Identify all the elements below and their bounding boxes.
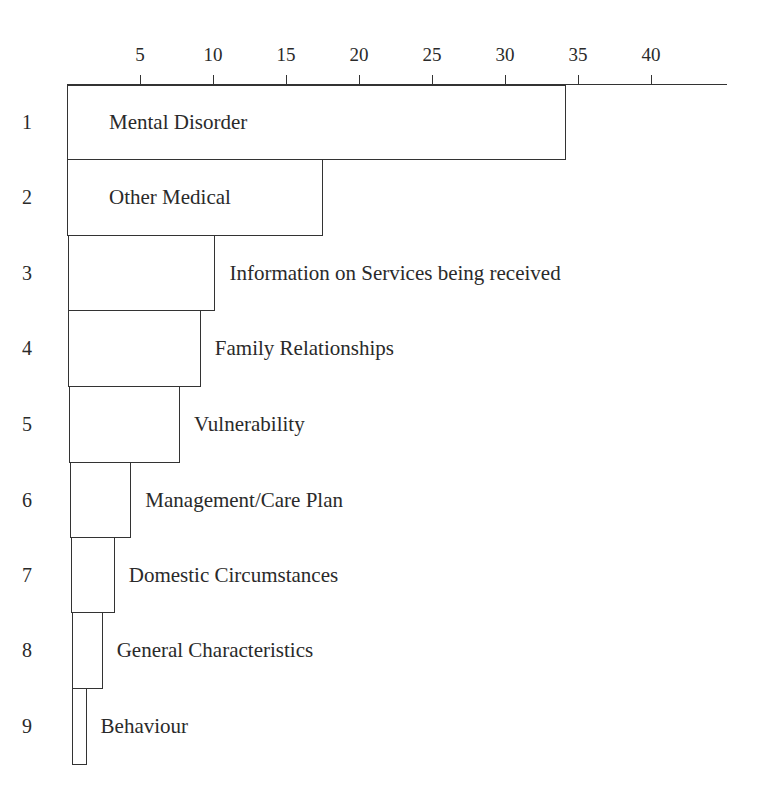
bar-label: Management/Care Plan xyxy=(145,487,343,512)
x-tick-label: 35 xyxy=(569,44,588,66)
row-number: 2 xyxy=(22,186,32,209)
x-tick-label: 25 xyxy=(423,44,442,66)
bar xyxy=(70,462,131,538)
x-tick xyxy=(286,75,287,84)
x-tick xyxy=(505,75,506,84)
bar xyxy=(72,612,103,689)
bar-label: Mental Disorder xyxy=(109,110,247,135)
horizontal-bar-chart: 510152025303540 1Mental Disorder2Other M… xyxy=(0,0,759,806)
bar-label: Domestic Circumstances xyxy=(129,562,338,587)
row-number: 4 xyxy=(22,337,32,360)
bar-label: Other Medical xyxy=(109,185,231,210)
row-number: 3 xyxy=(22,261,32,284)
row-number: 6 xyxy=(22,488,32,511)
row-number: 1 xyxy=(22,111,32,134)
row-number: 8 xyxy=(22,639,32,662)
x-tick xyxy=(578,75,579,84)
x-tick xyxy=(432,75,433,84)
x-tick-label: 40 xyxy=(642,44,661,66)
bar xyxy=(68,310,201,387)
x-tick-label: 10 xyxy=(204,44,223,66)
x-tick xyxy=(651,75,652,84)
bar-label: Behaviour xyxy=(101,714,188,739)
bar-label: General Characteristics xyxy=(117,638,314,663)
bar xyxy=(71,537,115,613)
x-tick xyxy=(359,75,360,84)
x-tick-label: 20 xyxy=(350,44,369,66)
bar xyxy=(69,386,180,463)
row-number: 7 xyxy=(22,563,32,586)
bar-label: Vulnerability xyxy=(194,412,305,437)
x-tick-label: 5 xyxy=(135,44,145,66)
row-number: 9 xyxy=(22,715,32,738)
x-tick-label: 15 xyxy=(277,44,296,66)
bar-label: Family Relationships xyxy=(215,336,394,361)
x-tick xyxy=(213,75,214,84)
row-number: 5 xyxy=(22,413,32,436)
x-tick-label: 30 xyxy=(496,44,515,66)
bar-label: Information on Services being received xyxy=(229,260,560,285)
bar xyxy=(68,235,215,311)
bar xyxy=(72,688,87,765)
x-tick xyxy=(140,75,141,84)
